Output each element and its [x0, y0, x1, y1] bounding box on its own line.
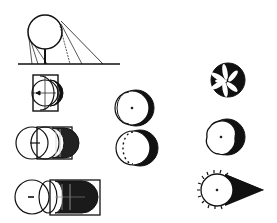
square-circle-arrow	[32, 75, 63, 111]
spiky-disc-cone-shadow	[197, 170, 264, 209]
sphere-on-stand-with-rays	[18, 15, 120, 64]
crescent-with-dot	[115, 90, 154, 126]
diagram-canvas	[0, 0, 277, 223]
flower-disc	[210, 63, 245, 97]
square-circle-dark	[15, 180, 100, 215]
rough-disc-crescent	[206, 119, 245, 155]
crescent-dashed	[116, 130, 158, 166]
square-circle-hatched	[16, 127, 79, 159]
